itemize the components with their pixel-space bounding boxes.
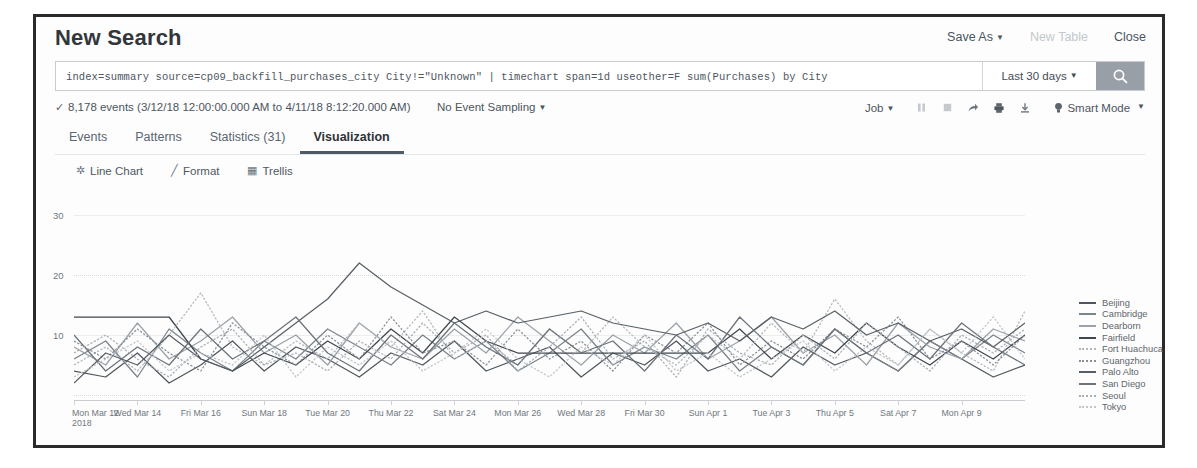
x-axis-tick: [328, 401, 329, 405]
event-sampling-label: No Event Sampling: [437, 101, 535, 113]
tabs-divider: [55, 154, 1145, 155]
legend-label: Tokyo: [1102, 402, 1126, 412]
legend-item[interactable]: Guangzhou: [1079, 355, 1163, 367]
share-button[interactable]: [960, 99, 986, 116]
trellis-button[interactable]: ▦ Trellis: [247, 164, 292, 177]
chart-line-palo-alto: [74, 263, 1025, 383]
tab-events[interactable]: Events: [55, 127, 121, 151]
job-button[interactable]: Job▼: [865, 102, 894, 114]
run-search-button[interactable]: [1096, 62, 1144, 90]
x-axis-tick-label: Sat Mar 24: [433, 408, 476, 418]
page-title: New Search: [55, 25, 182, 51]
grid-icon: ▦: [247, 164, 257, 177]
event-count-label: 8,178 events (3/12/18 12:00:00.000 AM to…: [68, 101, 410, 113]
legend-label: Guangzhou: [1102, 356, 1150, 366]
y-axis-tick-label: 30: [53, 210, 64, 221]
x-axis-tick: [518, 401, 519, 405]
format-button[interactable]: ╱ Format: [171, 164, 219, 177]
x-axis-tick-label: Mon Mar 26: [494, 408, 541, 418]
print-icon: [993, 102, 1005, 114]
x-axis-year-label: 2018: [72, 418, 119, 428]
legend-item[interactable]: Beijing: [1079, 297, 1163, 309]
legend-item[interactable]: Cambridge: [1079, 309, 1163, 321]
stop-button[interactable]: [934, 99, 960, 116]
search-icon: [1112, 68, 1129, 85]
event-sampling-dropdown[interactable]: No Event Sampling▼: [437, 101, 546, 113]
x-axis: Mon Mar 122018Wed Mar 14Fri Mar 16Sun Ma…: [74, 401, 1025, 431]
legend-item[interactable]: San Diego: [1079, 378, 1163, 390]
legend-swatch: [1079, 302, 1096, 304]
legend-swatch: [1079, 383, 1096, 385]
legend-item[interactable]: Palo Alto: [1079, 367, 1163, 379]
search-bar[interactable]: index=summary source=cp09_backfill_purch…: [55, 61, 1145, 91]
x-axis-tick: [201, 401, 202, 405]
share-icon: [967, 102, 979, 114]
tab-visualization[interactable]: Visualization: [300, 127, 404, 154]
x-axis-tick-label: Tue Apr 3: [752, 408, 790, 418]
chevron-down-icon: ▼: [538, 103, 546, 112]
x-axis-tick-label: Thu Mar 22: [369, 408, 414, 418]
x-axis-tick: [962, 401, 963, 405]
chevron-down-icon: ▼: [996, 33, 1004, 42]
search-mode-dropdown[interactable]: Smart Mode▼: [1054, 102, 1145, 114]
legend-label: Palo Alto: [1102, 367, 1139, 377]
chart-series-area: [74, 197, 1025, 395]
close-button[interactable]: Close: [1114, 30, 1146, 44]
new-table-button[interactable]: New Table: [1030, 30, 1088, 44]
pause-button[interactable]: [908, 99, 934, 116]
pencil-icon: ╱: [171, 164, 178, 177]
time-range-label: Last 30 days: [1001, 70, 1066, 82]
check-icon: ✓: [55, 101, 64, 113]
chart-line-dearborn: [74, 317, 1025, 365]
legend-swatch: [1079, 406, 1096, 408]
save-as-label: Save As: [947, 30, 993, 44]
search-input[interactable]: index=summary source=cp09_backfill_purch…: [56, 62, 982, 90]
chart-type-button[interactable]: ✲ Line Chart: [76, 164, 143, 177]
export-button[interactable]: [1012, 99, 1038, 116]
legend-item[interactable]: Dearborn: [1079, 320, 1163, 332]
legend-label: Beijing: [1102, 298, 1130, 308]
axis-baseline: [74, 395, 1025, 397]
x-axis-tick-label: Fri Mar 30: [625, 408, 665, 418]
chevron-down-icon: ▼: [1070, 71, 1078, 80]
x-axis-tick-label: Wed Mar 28: [557, 408, 605, 418]
event-count: ✓8,178 events (3/12/18 12:00:00.000 AM t…: [55, 101, 410, 114]
x-axis-tick: [708, 401, 709, 405]
save-as-button[interactable]: Save As▼: [947, 30, 1004, 44]
x-axis-tick-label: Sun Mar 18: [241, 408, 286, 418]
x-axis-tick-label: Sun Apr 1: [689, 408, 728, 418]
legend-item[interactable]: Fairfield: [1079, 332, 1163, 344]
x-axis-tick: [771, 401, 772, 405]
x-axis-tick: [645, 401, 646, 405]
x-axis-tick: [391, 401, 392, 405]
export-icon: [1019, 102, 1031, 114]
x-axis-tick-label: Tue Mar 20: [305, 408, 350, 418]
search-header: New Search Save As▼ New Table Close: [36, 17, 1162, 65]
legend-label: Fort Huachuca: [1102, 344, 1163, 354]
lightbulb-icon: [1054, 102, 1063, 114]
legend-item[interactable]: Tokyo: [1079, 401, 1163, 413]
chart-type-label: Line Chart: [90, 165, 143, 177]
legend-item[interactable]: Fort Huachuca: [1079, 343, 1163, 355]
tab-patterns[interactable]: Patterns: [121, 127, 196, 151]
y-axis-tick-label: 10: [53, 330, 64, 341]
chart-line-san-diego: [74, 317, 1025, 371]
x-axis-tick: [581, 401, 582, 405]
job-label: Job: [865, 102, 884, 114]
x-axis-tick-label: Fri Mar 16: [181, 408, 221, 418]
tab-statistics[interactable]: Statistics (31): [196, 127, 300, 151]
legend-swatch: [1079, 348, 1096, 350]
legend-item[interactable]: Seoul: [1079, 390, 1163, 402]
line-chart: 102030 Mon Mar 122018Wed Mar 14Fri Mar 1…: [53, 197, 1025, 419]
print-button[interactable]: [986, 99, 1012, 116]
legend-swatch: [1079, 395, 1096, 397]
x-axis-tick-label: Mon Apr 9: [942, 408, 982, 418]
legend-swatch: [1079, 337, 1096, 339]
x-axis-tick: [454, 401, 455, 405]
legend-label: San Diego: [1102, 379, 1145, 389]
legend-label: Cambridge: [1102, 309, 1147, 319]
time-range-picker[interactable]: Last 30 days▼: [982, 62, 1096, 90]
x-axis-tick: [835, 401, 836, 405]
legend-swatch: [1079, 325, 1096, 327]
x-axis-tick: [264, 401, 265, 405]
